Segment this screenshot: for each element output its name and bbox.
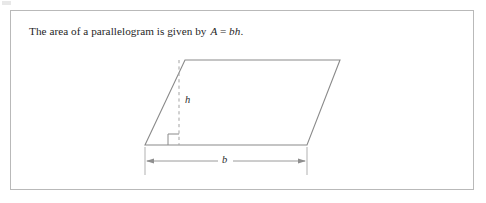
base-label: b [222,155,227,166]
formula-equals-sign: = [218,25,229,37]
caption-period: . [240,25,243,37]
figure-panel: The area of a parallelogram is given byA… [10,10,474,190]
height-label: h [185,95,190,106]
formula-variable-a: A [206,25,217,37]
formula-expression-bh: bh [229,25,241,37]
caption-lead-text: The area of a parallelogram is given by [29,25,206,37]
scan-artifact [2,1,11,5]
figure-caption: The area of a parallelogram is given byA… [29,24,243,39]
